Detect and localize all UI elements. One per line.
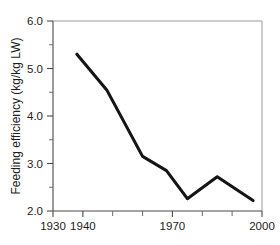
y-tick-label-6: 6.0	[27, 15, 43, 27]
x-tick-label-2000: 2000	[249, 220, 275, 232]
x-tick-label-1940: 1940	[70, 220, 96, 232]
chart-figure: 6.0 5.0 4.0 3.0 2.0 1930 1940 1970 2000 …	[0, 0, 280, 245]
x-tick-label-1970: 1970	[160, 220, 186, 232]
y-tick-label-5: 5.0	[27, 63, 43, 75]
y-axis-title: Feeding efficiency (kg/kg LW)	[9, 38, 23, 195]
x-tick-label-1930: 1930	[40, 220, 66, 232]
y-axis-ticks-major	[47, 21, 53, 211]
x-axis-ticks-major	[53, 211, 262, 217]
y-tick-label-3: 3.0	[27, 158, 43, 170]
plot-background	[53, 21, 262, 211]
y-tick-label-2: 2.0	[27, 205, 43, 217]
line-chart: 6.0 5.0 4.0 3.0 2.0 1930 1940 1970 2000 …	[0, 0, 280, 245]
y-tick-label-4: 4.0	[27, 110, 43, 122]
